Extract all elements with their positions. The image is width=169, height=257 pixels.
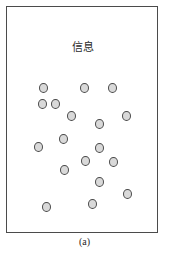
node-scatter-field: [7, 7, 159, 234]
node-circle: [42, 202, 51, 212]
node-circle: [67, 111, 76, 121]
node-circle: [95, 143, 104, 153]
node-circle: [122, 111, 131, 121]
node-circle: [108, 83, 117, 93]
diagram-panel-frame: 信息: [6, 6, 158, 233]
figure-caption: (a): [0, 236, 169, 248]
node-circle: [95, 177, 104, 187]
node-circle: [95, 119, 104, 129]
node-circle: [51, 99, 60, 109]
node-circle: [59, 134, 68, 144]
figure-root: 信息 (a): [0, 0, 169, 257]
node-circle: [88, 199, 97, 209]
node-circle: [39, 83, 48, 93]
node-circle: [80, 83, 89, 93]
node-circle: [38, 99, 47, 109]
node-circle: [81, 156, 90, 166]
node-circle: [60, 165, 69, 175]
node-circle: [109, 157, 118, 167]
node-circle: [34, 142, 43, 152]
node-circle: [123, 189, 132, 199]
